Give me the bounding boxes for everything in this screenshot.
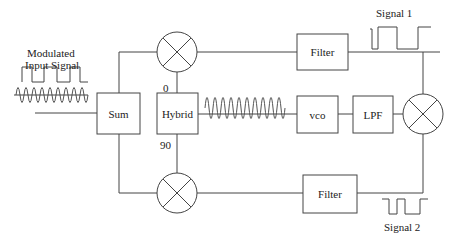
carrier-waveform xyxy=(205,98,285,119)
sum-label: Sum xyxy=(97,93,140,134)
filter-top-label: Filter xyxy=(297,34,348,70)
hybrid-port-0: 0 xyxy=(163,82,169,94)
top-mixer-icon xyxy=(157,32,197,72)
input-label-line2: Input Signal xyxy=(25,59,79,71)
signal2-label: Signal 2 xyxy=(384,221,420,233)
signal2-waveform xyxy=(382,199,428,214)
vco-label: vco xyxy=(297,96,338,133)
lpf-label: LPF xyxy=(353,96,393,133)
right-mixer-icon xyxy=(403,94,443,134)
signal1-waveform xyxy=(370,27,431,49)
hybrid-label: Hybrid xyxy=(157,93,198,134)
modulated-input-waveform xyxy=(14,67,88,103)
signal1-label: Signal 1 xyxy=(376,7,412,19)
bottom-mixer-icon xyxy=(157,173,197,213)
hybrid-port-90: 90 xyxy=(160,139,171,151)
input-label-line1: Modulated xyxy=(27,47,75,59)
filter-bottom-label: Filter xyxy=(303,175,357,213)
